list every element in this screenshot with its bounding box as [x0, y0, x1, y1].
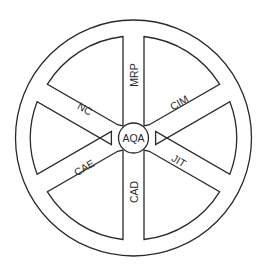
sector-right — [156, 102, 237, 174]
spoke-label-jit: JIT — [170, 152, 189, 170]
wheel-diagram: AQA MRP CIM JIT CAD CAE NC — [0, 0, 267, 271]
sector-top-right — [144, 37, 220, 127]
hub-label: AQA — [122, 132, 144, 144]
spoke-label-mrp: MRP — [128, 63, 140, 86]
sector-left — [30, 102, 111, 174]
spoke-label-cae: CAE — [72, 157, 97, 178]
spoke-label-cad: CAD — [128, 180, 140, 203]
spoke-label-cim: CIM — [168, 93, 191, 113]
